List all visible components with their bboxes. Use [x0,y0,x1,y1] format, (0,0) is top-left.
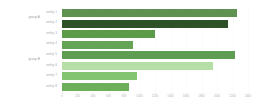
x-tick-label: 2000 [214,95,220,98]
x-tick-label: 2400 [245,95,251,98]
x-tick-label: 400 [91,95,96,98]
bar[interactable] [62,41,133,49]
category-label-6: entity 6 [46,63,57,67]
gridline [248,8,249,92]
category-label-5: entity 5 [46,52,57,56]
x-tick-label: 800 [122,95,127,98]
category-label-2: entity 2 [46,20,57,24]
category-label-3: entity 3 [46,31,57,35]
x-tick-label: 600 [106,95,111,98]
bar[interactable] [62,83,129,91]
x-tick-label: 1000 [136,95,142,98]
plot-area [62,8,248,92]
x-tick-label: 1400 [167,95,173,98]
bar-series [62,8,248,92]
x-axis: 0200400600800100012001400160018002000220… [62,93,248,103]
bar[interactable] [62,9,237,17]
x-tick-label: 0 [61,95,63,98]
bar[interactable] [62,30,155,38]
category-label-axis: entity 1 entity 2 entity 3 entity 4 enti… [0,0,60,92]
x-tick-label: 1800 [198,95,204,98]
bar-chart: group A group B entity 1 entity 2 entity… [0,0,260,112]
category-label-4: entity 4 [46,41,57,45]
x-tick-label: 2200 [229,95,235,98]
x-tick-label: 200 [75,95,80,98]
category-label-1: entity 1 [46,10,57,14]
x-tick-label: 1200 [152,95,158,98]
x-tick-label: 1600 [183,95,189,98]
bar[interactable] [62,51,235,59]
bar[interactable] [62,62,213,70]
category-label-7: entity 7 [46,73,57,77]
bar[interactable] [62,20,228,28]
bar[interactable] [62,72,137,80]
category-label-8: entity 8 [46,84,57,88]
